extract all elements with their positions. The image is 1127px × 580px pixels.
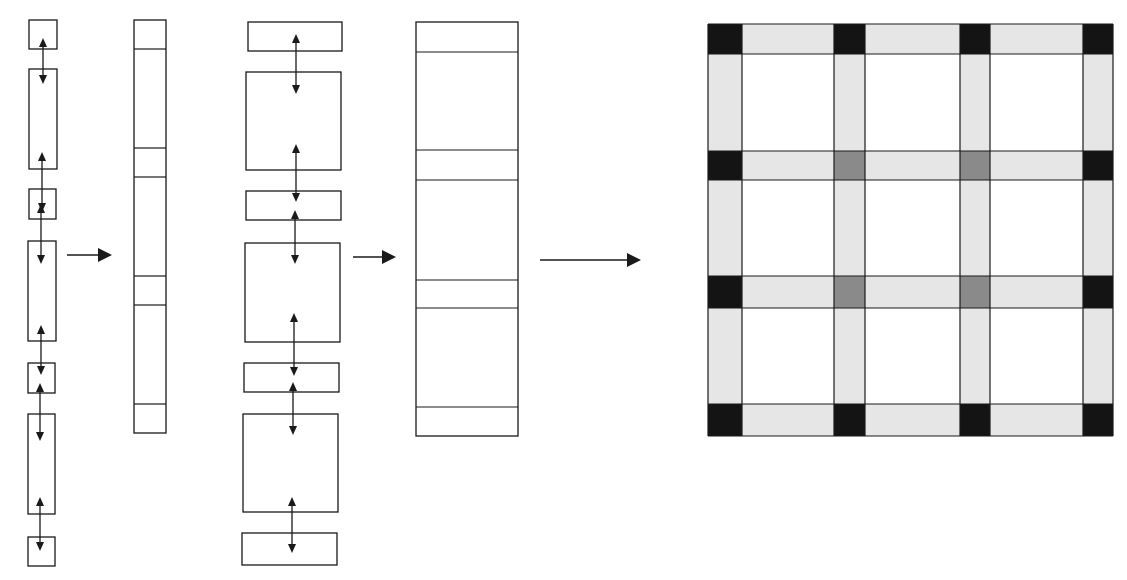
- dark-junction: [708, 151, 742, 180]
- double-arrow-icon: [292, 144, 300, 202]
- gray-junction: [834, 276, 865, 308]
- double-arrow-icon: [37, 204, 45, 264]
- double-arrow-icon: [292, 34, 300, 94]
- vertical-band: [960, 24, 990, 436]
- double-arrow-icon: [39, 38, 47, 84]
- vertical-band: [834, 24, 865, 436]
- dark-junction: [960, 404, 990, 436]
- piece-box: [28, 414, 55, 514]
- dark-junction: [960, 24, 990, 54]
- gray-junction: [960, 276, 990, 308]
- vertical-band: [708, 24, 742, 436]
- right-arrow-icon: [67, 248, 112, 262]
- double-arrow-icon: [288, 497, 296, 553]
- right-arrow-icon: [540, 253, 641, 267]
- dark-junction: [708, 276, 742, 308]
- assembly-diagram: [0, 0, 1127, 580]
- dark-junction: [1083, 404, 1113, 436]
- dark-junction: [834, 404, 865, 436]
- stage4-joined-wide-strip: [416, 22, 518, 436]
- piece-box: [242, 533, 337, 565]
- double-arrow-icon: [36, 383, 44, 441]
- horizontal-band: [708, 24, 1113, 54]
- wide-strip: [416, 22, 518, 436]
- horizontal-band: [708, 276, 1113, 308]
- stage2-joined-narrow-strip: [134, 20, 166, 433]
- gray-junction: [834, 151, 865, 180]
- dark-junction: [1083, 276, 1113, 308]
- dark-junction: [834, 24, 865, 54]
- vertical-band: [1083, 24, 1113, 436]
- double-arrow-icon: [289, 382, 297, 435]
- right-arrow-icon: [353, 250, 396, 264]
- horizontal-band: [708, 151, 1113, 180]
- dark-junction: [708, 404, 742, 436]
- stage1-separate-small-boxes: [28, 20, 57, 566]
- double-arrow-icon: [36, 497, 44, 551]
- double-arrow-icon: [38, 152, 46, 212]
- dark-junction: [1083, 151, 1113, 180]
- narrow-strip: [134, 20, 166, 433]
- stage3-separate-wide-boxes: [242, 22, 342, 565]
- dark-junction: [708, 24, 742, 54]
- piece-box: [28, 537, 55, 566]
- grid-background: [708, 24, 1113, 436]
- gray-junction: [960, 151, 990, 180]
- double-arrow-icon: [37, 325, 45, 375]
- horizontal-band: [708, 404, 1113, 436]
- final-grid: [708, 24, 1113, 436]
- double-arrow-icon: [291, 210, 299, 264]
- dark-junction: [1083, 24, 1113, 54]
